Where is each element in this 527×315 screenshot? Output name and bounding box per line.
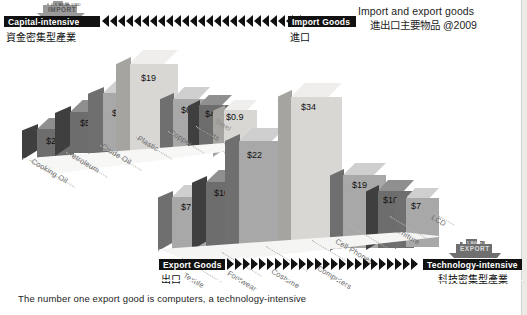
import-arrow-chevrons: [102, 15, 302, 27]
chevron-left-icon: [222, 15, 229, 27]
chevron-right-icon: [371, 258, 378, 270]
bar-side-face: [160, 93, 174, 155]
chevron-right-icon: [275, 258, 282, 270]
chevron-right-icon: [227, 258, 234, 270]
chevron-left-icon: [118, 15, 125, 27]
chevron-right-icon: [323, 258, 330, 270]
chevron-left-icon: [254, 15, 261, 27]
chevron-left-icon: [262, 15, 269, 27]
bar-side-face: [55, 106, 71, 156]
title-english: Import and export goods: [358, 4, 523, 18]
chevron-right-icon: [299, 258, 306, 270]
bar-top-face: [128, 50, 178, 65]
export-bar-value: $19: [352, 180, 367, 190]
chevron-left-icon: [246, 15, 253, 27]
chevron-right-icon: [243, 258, 250, 270]
banner-capital-intensive-zh: 資金密集型產業: [6, 29, 76, 44]
caption-text: The number one export good is computers,…: [18, 293, 306, 304]
banner-import-goods: Import Goods: [288, 16, 356, 27]
export-bar-value: $7: [411, 201, 421, 211]
divider: [0, 280, 522, 281]
chevron-left-icon: [166, 15, 173, 27]
bar-side-face: [116, 57, 131, 160]
title-chinese: 進出口主要物品 @2009: [358, 18, 523, 32]
chevron-left-icon: [110, 15, 117, 27]
chevron-left-icon: [198, 15, 205, 27]
banner-export-goods-label: Export Goods: [159, 260, 226, 270]
banner-import-goods-label: Import Goods: [288, 17, 354, 27]
chevron-right-icon: [379, 258, 386, 270]
banner-technology-intensive: Technology-intensive: [423, 259, 522, 270]
import-ship-icon: 0.1 Billion USD IMPORT: [33, 0, 89, 17]
chevron-right-icon: [363, 258, 370, 270]
chevron-right-icon: [291, 258, 298, 270]
chevron-right-icon: [259, 258, 266, 270]
chevron-right-icon: [411, 258, 418, 270]
infographic-canvas: Import and export goods 進出口主要物品 @2009 0.…: [0, 0, 527, 315]
chevron-left-icon: [190, 15, 197, 27]
chevron-left-icon: [278, 15, 285, 27]
export-arrow-chevrons: [227, 258, 419, 270]
chevron-left-icon: [174, 15, 181, 27]
chevron-right-icon: [403, 258, 410, 270]
chevron-right-icon: [395, 258, 402, 270]
import-bar-value: $19: [141, 73, 156, 83]
chevron-left-icon: [134, 15, 141, 27]
chevron-right-icon: [251, 258, 258, 270]
export-bar-costume: $22: [225, 128, 285, 252]
import-bar-value: $0.9: [226, 112, 244, 122]
bar-side-face: [158, 191, 173, 251]
banner-capital-intensive: Capital-intensive: [4, 16, 100, 27]
chevron-right-icon: [355, 258, 362, 270]
chevron-right-icon: [235, 258, 242, 270]
export-ship-icon: 0.1 Billion USD EXPORT: [447, 237, 503, 259]
banner-capital-intensive-label: Capital-intensive: [4, 17, 83, 27]
bar-side-face: [192, 176, 207, 250]
chevron-left-icon: [230, 15, 237, 27]
chevron-right-icon: [347, 258, 354, 270]
export-bar-value: $22: [247, 150, 262, 160]
chevron-right-icon: [339, 258, 346, 270]
bar-top-face: [290, 83, 342, 98]
chevron-left-icon: [102, 15, 109, 27]
chevron-right-icon: [331, 258, 338, 270]
chevron-right-icon: [387, 258, 394, 270]
import-ship-label: IMPORT: [48, 6, 76, 13]
banner-technology-intensive-label: Technology-intensive: [423, 260, 522, 270]
chevron-right-icon: [315, 258, 322, 270]
chevron-right-icon: [307, 258, 314, 270]
chevron-left-icon: [158, 15, 165, 27]
export-bar-value: $7: [181, 202, 191, 212]
banner-import-goods-zh: 進口: [290, 29, 310, 44]
chevron-right-icon: [283, 258, 290, 270]
page-title: Import and export goods 進出口主要物品 @2009: [358, 4, 523, 32]
export-bar-value: $34: [301, 102, 316, 112]
export-ship-label: EXPORT: [460, 245, 490, 252]
chevron-left-icon: [214, 15, 221, 27]
export-unit-label: 0.1 Billion USD: [463, 240, 493, 245]
banner-technology-intensive-zh: 科技密集型產業: [438, 271, 508, 286]
bar-side-face: [278, 90, 292, 252]
banner-export-goods-zh: 出口: [161, 271, 181, 286]
bar-side-face: [225, 134, 240, 249]
chevron-left-icon: [150, 15, 157, 27]
chevron-left-icon: [206, 15, 213, 27]
chevron-left-icon: [142, 15, 149, 27]
chevron-left-icon: [238, 15, 245, 27]
chevron-left-icon: [182, 15, 189, 27]
export-label-costume: Costume: [270, 267, 302, 291]
bar-side-face: [22, 124, 38, 160]
banner-export-goods: Export Goods: [159, 259, 225, 270]
chevron-right-icon: [267, 258, 274, 270]
chevron-left-icon: [270, 15, 277, 27]
chevron-left-icon: [126, 15, 133, 27]
